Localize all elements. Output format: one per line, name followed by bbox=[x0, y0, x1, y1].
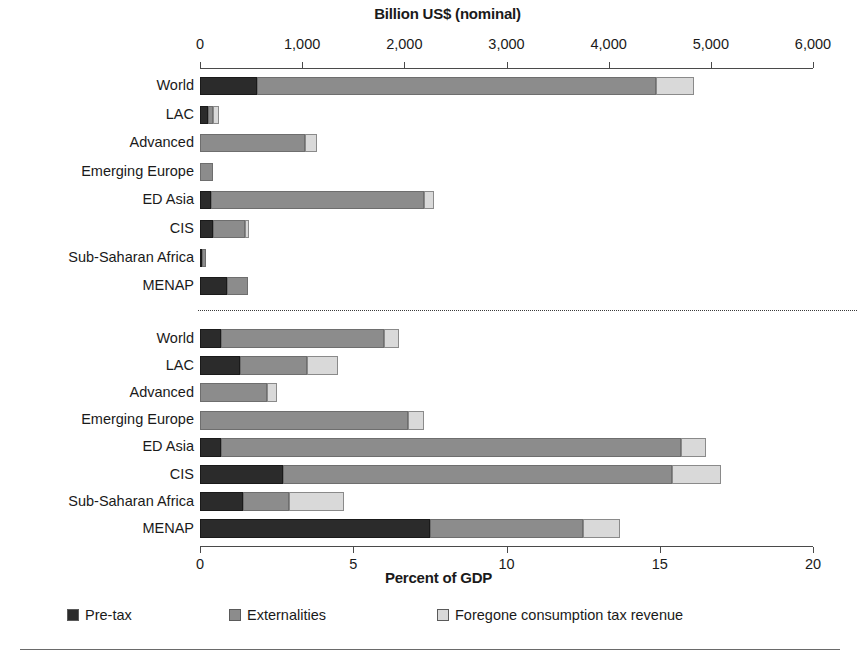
bar-segment-externalities bbox=[211, 191, 424, 209]
category-label: MENAP bbox=[4, 521, 194, 536]
chart-figure: Billion US$ (nominal) 01,0002,0003,0004,… bbox=[0, 0, 857, 661]
category-label: ED Asia bbox=[4, 192, 194, 207]
bar-segment-externalities bbox=[200, 411, 408, 430]
category-label: LAC bbox=[4, 107, 194, 122]
bar-segment-foregone-consumption-tax-revenue bbox=[307, 356, 338, 375]
axis-tick bbox=[660, 547, 661, 553]
category-label: Advanced bbox=[4, 385, 194, 400]
axis-tick-label: 0 bbox=[196, 36, 204, 52]
bar-segment-externalities bbox=[200, 383, 267, 402]
bar-segment-pre-tax bbox=[200, 492, 243, 511]
bar-segment-pre-tax bbox=[200, 438, 221, 457]
category-label: ED Asia bbox=[4, 439, 194, 454]
category-label: Emerging Europe bbox=[4, 164, 194, 179]
legend-item-externalities: Externalities bbox=[229, 607, 326, 623]
category-label: Sub-Saharan Africa bbox=[4, 250, 194, 265]
bar-segment-externalities bbox=[213, 220, 245, 238]
top-axis-title: Billion US$ (nominal) bbox=[0, 5, 857, 22]
legend-label-foregone: Foregone consumption tax revenue bbox=[455, 607, 683, 623]
category-label: Advanced bbox=[4, 135, 194, 150]
panel-divider bbox=[198, 310, 857, 311]
axis-tick bbox=[609, 62, 610, 68]
axis-tick-label: 6,000 bbox=[795, 36, 831, 52]
bar-segment-pre-tax bbox=[200, 220, 213, 238]
category-label: Sub-Saharan Africa bbox=[4, 494, 194, 509]
axis-tick-label: 3,000 bbox=[488, 36, 524, 52]
axis-tick bbox=[813, 62, 814, 68]
bar-segment-externalities bbox=[283, 465, 672, 484]
bar-segment-foregone-consumption-tax-revenue bbox=[681, 438, 706, 457]
bar-segment-pre-tax bbox=[200, 465, 283, 484]
axis-tick bbox=[353, 547, 354, 553]
top-axis-line bbox=[200, 68, 813, 69]
legend-swatch-externalities bbox=[229, 609, 241, 621]
axis-tick-label: 1,000 bbox=[284, 36, 320, 52]
axis-tick bbox=[711, 62, 712, 68]
legend-item-pre-tax: Pre-tax bbox=[67, 607, 132, 623]
bar-segment-foregone-consumption-tax-revenue bbox=[384, 329, 399, 348]
axis-tick bbox=[200, 62, 201, 68]
axis-tick bbox=[813, 547, 814, 553]
bar-segment-externalities bbox=[257, 77, 656, 95]
category-label: MENAP bbox=[4, 278, 194, 293]
category-label: Emerging Europe bbox=[4, 412, 194, 427]
axis-tick bbox=[200, 547, 201, 553]
bar-segment-externalities bbox=[221, 438, 681, 457]
bottom-panel-bars bbox=[200, 325, 813, 543]
bar-segment-foregone-consumption-tax-revenue bbox=[672, 465, 721, 484]
category-label: CIS bbox=[4, 467, 194, 482]
category-label: LAC bbox=[4, 358, 194, 373]
bar-segment-foregone-consumption-tax-revenue bbox=[424, 191, 434, 209]
legend-item-foregone-consumption-tax-revenue: Foregone consumption tax revenue bbox=[437, 607, 683, 623]
bar-segment-foregone-consumption-tax-revenue bbox=[305, 134, 318, 152]
axis-tick bbox=[404, 62, 405, 68]
bar-segment-foregone-consumption-tax-revenue bbox=[289, 492, 344, 511]
bar-segment-pre-tax bbox=[200, 106, 208, 124]
figure-bottom-rule bbox=[20, 649, 840, 650]
bar-segment-externalities bbox=[200, 163, 213, 181]
bar-segment-pre-tax bbox=[200, 356, 240, 375]
bar-segment-pre-tax bbox=[200, 77, 257, 95]
bar-segment-externalities bbox=[202, 249, 206, 267]
bottom-axis-title: Percent of GDP bbox=[0, 569, 857, 586]
axis-tick bbox=[507, 547, 508, 553]
axis-tick-label: 2,000 bbox=[386, 36, 422, 52]
bar-segment-externalities bbox=[200, 134, 305, 152]
bar-segment-pre-tax bbox=[200, 277, 227, 295]
bar-segment-pre-tax bbox=[200, 519, 430, 538]
legend-swatch-foregone bbox=[437, 609, 449, 621]
axis-tick bbox=[302, 62, 303, 68]
category-label: CIS bbox=[4, 221, 194, 236]
legend-swatch-pre-tax bbox=[67, 609, 79, 621]
bar-segment-externalities bbox=[430, 519, 583, 538]
bar-segment-externalities bbox=[221, 329, 383, 348]
bar-segment-pre-tax bbox=[200, 329, 221, 348]
bar-segment-externalities bbox=[227, 277, 248, 295]
bar-segment-foregone-consumption-tax-revenue bbox=[267, 383, 276, 402]
bar-segment-pre-tax bbox=[200, 191, 211, 209]
top-panel-bars bbox=[200, 72, 813, 295]
legend-label-externalities: Externalities bbox=[247, 607, 326, 623]
axis-tick-label: 4,000 bbox=[591, 36, 627, 52]
bottom-category-labels: WorldLACAdvancedEmerging EuropeED AsiaCI… bbox=[0, 325, 194, 543]
category-label: World bbox=[4, 331, 194, 346]
bar-segment-foregone-consumption-tax-revenue bbox=[245, 220, 249, 238]
bar-segment-foregone-consumption-tax-revenue bbox=[213, 106, 219, 124]
legend-label-pre-tax: Pre-tax bbox=[85, 607, 132, 623]
bar-segment-externalities bbox=[240, 356, 307, 375]
bar-segment-foregone-consumption-tax-revenue bbox=[408, 411, 423, 430]
bar-segment-foregone-consumption-tax-revenue bbox=[583, 519, 620, 538]
top-category-labels: WorldLACAdvancedEmerging EuropeED AsiaCI… bbox=[0, 72, 194, 295]
axis-tick bbox=[507, 62, 508, 68]
category-label: World bbox=[4, 78, 194, 93]
bar-segment-foregone-consumption-tax-revenue bbox=[656, 77, 694, 95]
axis-tick-label: 5,000 bbox=[693, 36, 729, 52]
bar-segment-externalities bbox=[243, 492, 289, 511]
chart-legend: Pre-tax Externalities Foregone consumpti… bbox=[0, 607, 857, 631]
